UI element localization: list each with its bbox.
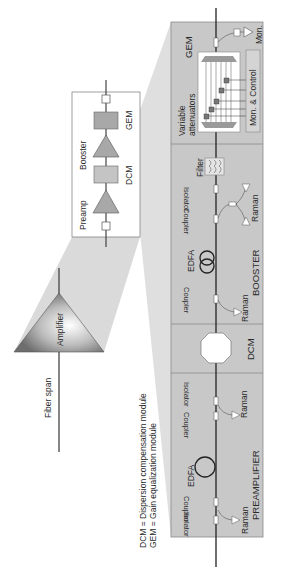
preamp-coupler-top-label: Coupler (182, 412, 191, 439)
raman-combiner (229, 202, 236, 206)
fiber-span-label: Fiber span (43, 378, 53, 418)
booster-raman-bottom-label: Raman (240, 294, 250, 322)
variable-attenuators-label-1: Variable (177, 105, 187, 136)
booster-coupler-top-label: Coupler (182, 208, 191, 235)
overview-input-connector (102, 222, 110, 230)
overview-gem-box (94, 112, 118, 129)
demux-grating-icon (201, 56, 237, 62)
dcm-octagon-icon (201, 333, 231, 363)
mon-control-label: Mon. & Control (248, 69, 258, 126)
legend-dcm-definition: DCM = Dispersion compensation module (138, 393, 148, 548)
preamplifier-title: PREAMPLIFIER (250, 450, 261, 520)
monitor-connector (234, 29, 240, 36)
mux-grating-icon (201, 122, 237, 128)
overview-gem-label: GEM (124, 111, 134, 130)
gem-title: GEM (183, 36, 194, 58)
legend-gem-definition: GEM = Gain equalization module (148, 423, 158, 548)
preamp-coupler-bottom (214, 498, 218, 506)
overview-preamp-label: Preamp (78, 200, 88, 230)
overview-output-connector (102, 95, 110, 103)
amplifier-label: Amplifier (55, 313, 65, 346)
booster-edfa-label: EDFA (186, 249, 196, 272)
amplifier-architecture-diagram: Amplifier Fiber span Preamp Booster DCM … (0, 0, 281, 575)
overview-dcm-box (94, 166, 118, 183)
preamp-isolator-top (214, 397, 218, 405)
dcm-title: DCM (245, 338, 256, 360)
overview-dcm-label: DCM (124, 166, 134, 185)
booster-coupler-bottom-label: Coupler (182, 287, 191, 314)
overview-booster-label: Booster (78, 141, 88, 170)
preamp-isolator-bottom-label: Isolator (182, 512, 191, 537)
preamp-edfa-label: EDFA (186, 464, 196, 487)
variable-attenuators-label-2: attenuators (187, 93, 197, 136)
preamp-isolator-bottom (214, 516, 218, 524)
booster-coupler-bottom (214, 295, 218, 303)
gem-tap-coupler (214, 38, 218, 47)
preamp-coupler-top (214, 412, 218, 420)
mon-label: Mon. (254, 25, 264, 44)
booster-raman-top-label: Raman (250, 194, 260, 222)
overview-box: Preamp Booster DCM GEM (72, 80, 140, 247)
preamp-raman-bottom-label: Raman (240, 506, 250, 534)
booster-filter-label: Filter (195, 158, 205, 177)
booster-isolator (214, 185, 218, 193)
booster-title: BOOSTER (250, 249, 261, 296)
preamp-isolator-top-label: Isolator (182, 382, 191, 407)
booster-coupler-top (214, 215, 218, 223)
preamp-raman-top-label: Raman (239, 390, 249, 418)
